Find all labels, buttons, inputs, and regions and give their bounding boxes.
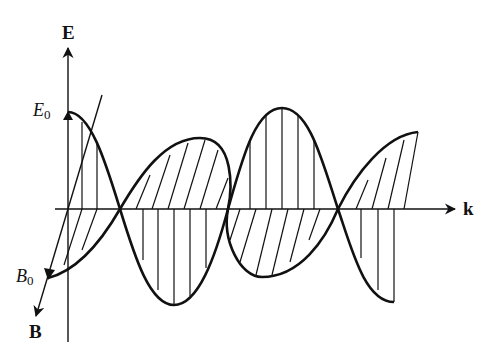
b-field-wave [48, 132, 418, 278]
b-axis [36, 95, 102, 316]
e-axis-label: E [62, 23, 75, 42]
b0-label-main: B [16, 266, 27, 286]
em-wave-diagram [0, 0, 493, 364]
k-axis-label: k [463, 199, 474, 218]
e0-label: E0 [33, 101, 51, 121]
e0-label-main: E [33, 100, 44, 120]
b0-label: B0 [16, 267, 34, 287]
e-field-wave [68, 108, 394, 305]
e0-label-sub: 0 [44, 107, 51, 122]
e-field-hatching [82, 108, 394, 304]
b-axis-label: B [29, 322, 42, 341]
b0-label-sub: 0 [27, 273, 34, 288]
